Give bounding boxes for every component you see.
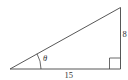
angle-label: θ <box>43 53 47 63</box>
angle-arc <box>37 54 41 69</box>
triangle <box>10 8 121 70</box>
hypotenuse-edge <box>10 8 121 70</box>
base-length-label: 15 <box>65 70 74 80</box>
height-length-label: 8 <box>123 29 127 39</box>
right-angle-marker <box>110 58 121 69</box>
right-triangle-diagram: θ 15 8 <box>0 0 128 79</box>
